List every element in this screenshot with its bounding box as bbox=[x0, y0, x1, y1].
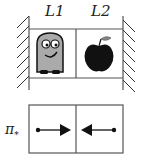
diagram-canvas bbox=[0, 0, 145, 164]
policy-symbol: π bbox=[5, 121, 14, 137]
policy-label: π* bbox=[5, 121, 19, 140]
arrow-right-icon bbox=[36, 124, 71, 136]
robot-icon bbox=[37, 33, 63, 74]
arrow-left-icon bbox=[81, 124, 116, 136]
policy-subscript: * bbox=[14, 130, 19, 140]
apple-icon bbox=[85, 37, 114, 72]
left-wall bbox=[17, 16, 29, 90]
bottom-grid bbox=[29, 105, 123, 153]
right-wall bbox=[123, 16, 135, 92]
